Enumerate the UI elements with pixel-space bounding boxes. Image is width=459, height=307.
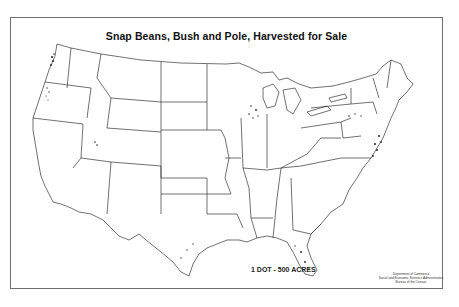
us-map [11, 18, 444, 290]
us-outline [33, 44, 413, 276]
great-lakes [263, 84, 347, 116]
map-frame: Snap Beans, Bush and Pole, Harvested for… [10, 17, 443, 289]
credit-line: Bureau of the Census [371, 281, 451, 285]
dot-cluster-new-york [348, 113, 361, 116]
dot-cluster-wisconsin [248, 105, 259, 119]
map-legend: 1 DOT - 500 ACRES [251, 266, 316, 273]
state-boundaries [33, 48, 391, 238]
map-credit: Department of Commerce Social and Econom… [371, 273, 451, 284]
dot-cluster-utah [94, 141, 98, 146]
dot-cluster-washington [50, 53, 55, 66]
dot-cluster-oregon [45, 87, 49, 100]
dot-cluster-gulf-coast [180, 243, 193, 258]
